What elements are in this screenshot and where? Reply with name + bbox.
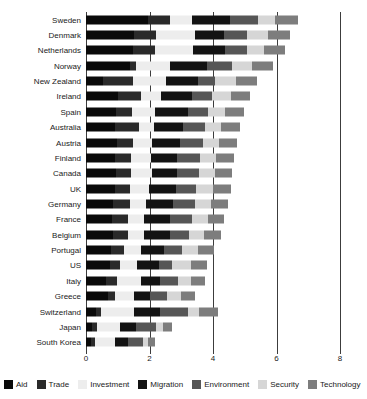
stacked-bar[interactable] xyxy=(86,215,224,224)
bar-segment-aid[interactable] xyxy=(86,200,113,209)
stacked-bar[interactable] xyxy=(86,61,273,70)
bar-segment-investment[interactable] xyxy=(130,184,149,193)
bar-segment-environment[interactable] xyxy=(160,307,188,316)
bar-segment-technology[interactable] xyxy=(213,184,231,193)
bar-segment-migration[interactable] xyxy=(193,46,225,55)
bar-segment-security[interactable] xyxy=(203,138,218,147)
bar-segment-investment[interactable] xyxy=(128,230,144,239)
bar-segment-aid[interactable] xyxy=(86,107,116,116)
bar-segment-technology[interactable] xyxy=(215,169,232,178)
stacked-bar[interactable] xyxy=(86,169,232,178)
bar-segment-security[interactable] xyxy=(156,322,163,331)
bar-segment-environment[interactable] xyxy=(183,123,205,132)
bar-segment-aid[interactable] xyxy=(86,123,115,132)
bar-segment-investment[interactable] xyxy=(156,31,195,40)
bar-segment-security[interactable] xyxy=(192,215,208,224)
stacked-bar[interactable] xyxy=(86,276,205,285)
bar-segment-security[interactable] xyxy=(247,31,267,40)
bar-segment-migration[interactable] xyxy=(120,322,136,331)
bar-segment-aid[interactable] xyxy=(86,153,115,162)
bar-segment-investment[interactable] xyxy=(117,276,141,285)
bar-segment-trade[interactable] xyxy=(117,138,133,147)
bar-segment-investment[interactable] xyxy=(131,153,151,162)
bar-segment-aid[interactable] xyxy=(86,246,111,255)
bar-segment-technology[interactable] xyxy=(216,153,234,162)
legend-item-technology[interactable]: Technology xyxy=(308,380,360,389)
bar-segment-environment[interactable] xyxy=(177,169,199,178)
bar-segment-technology[interactable] xyxy=(219,138,237,147)
bar-segment-investment[interactable] xyxy=(115,292,133,301)
stacked-bar[interactable] xyxy=(86,77,257,86)
bar-segment-environment[interactable] xyxy=(159,261,172,270)
bar-segment-trade[interactable] xyxy=(112,215,128,224)
bar-segment-trade[interactable] xyxy=(108,292,115,301)
bar-segment-aid[interactable] xyxy=(86,169,116,178)
bar-segment-aid[interactable] xyxy=(86,307,96,316)
bar-segment-investment[interactable] xyxy=(155,46,193,55)
bar-segment-migration[interactable] xyxy=(141,276,159,285)
bar-segment-technology[interactable] xyxy=(231,92,251,101)
bar-segment-security[interactable] xyxy=(196,184,213,193)
bar-segment-migration[interactable] xyxy=(195,31,224,40)
legend-item-security[interactable]: Security xyxy=(258,380,299,389)
stacked-bar[interactable] xyxy=(86,200,228,209)
bar-segment-technology[interactable] xyxy=(211,200,228,209)
bar-segment-trade[interactable] xyxy=(113,230,128,239)
stacked-bar[interactable] xyxy=(86,138,237,147)
bar-segment-investment[interactable] xyxy=(124,246,141,255)
bar-segment-aid[interactable] xyxy=(86,61,130,70)
bar-segment-aid[interactable] xyxy=(86,92,118,101)
bar-segment-investment[interactable] xyxy=(131,169,151,178)
stacked-bar[interactable] xyxy=(86,307,218,316)
bar-segment-technology[interactable] xyxy=(191,261,207,270)
legend-item-environment[interactable]: Environment xyxy=(192,380,249,389)
bar-segment-aid[interactable] xyxy=(86,31,134,40)
stacked-bar[interactable] xyxy=(86,92,250,101)
bar-segment-aid[interactable] xyxy=(86,261,110,270)
bar-segment-security[interactable] xyxy=(208,107,225,116)
bar-segment-security[interactable] xyxy=(172,261,190,270)
bar-segment-trade[interactable] xyxy=(118,92,141,101)
bar-segment-technology[interactable] xyxy=(236,77,258,86)
bar-segment-investment[interactable] xyxy=(97,322,120,331)
bar-segment-technology[interactable] xyxy=(264,46,286,55)
stacked-bar[interactable] xyxy=(86,292,195,301)
bar-segment-environment[interactable] xyxy=(230,15,258,24)
bar-segment-migration[interactable] xyxy=(166,77,198,86)
legend-item-aid[interactable]: Aid xyxy=(4,380,28,389)
bar-segment-technology[interactable] xyxy=(191,276,206,285)
bar-segment-migration[interactable] xyxy=(161,92,192,101)
bar-segment-aid[interactable] xyxy=(86,215,112,224)
bar-segment-technology[interactable] xyxy=(221,123,240,132)
legend-item-investment[interactable]: Investment xyxy=(78,380,129,389)
bar-segment-migration[interactable] xyxy=(152,169,177,178)
stacked-bar[interactable] xyxy=(86,15,298,24)
bar-segment-security[interactable] xyxy=(247,46,264,55)
bar-segment-migration[interactable] xyxy=(137,261,159,270)
bar-segment-investment[interactable] xyxy=(133,138,152,147)
bar-segment-migration[interactable] xyxy=(115,338,128,347)
bar-segment-investment[interactable] xyxy=(139,123,154,132)
bar-segment-migration[interactable] xyxy=(192,15,231,24)
bar-segment-trade[interactable] xyxy=(110,261,120,270)
bar-segment-trade[interactable] xyxy=(134,31,157,40)
bar-segment-trade[interactable] xyxy=(133,46,155,55)
legend-item-trade[interactable]: Trade xyxy=(37,380,70,389)
stacked-bar[interactable] xyxy=(86,261,207,270)
bar-segment-trade[interactable] xyxy=(111,246,124,255)
bar-segment-technology[interactable] xyxy=(268,31,290,40)
bar-segment-trade[interactable] xyxy=(116,169,131,178)
bar-segment-technology[interactable] xyxy=(199,307,218,316)
bar-segment-investment[interactable] xyxy=(95,338,115,347)
bar-segment-environment[interactable] xyxy=(128,338,143,347)
bar-segment-trade[interactable] xyxy=(148,15,170,24)
bar-segment-security[interactable] xyxy=(195,200,212,209)
stacked-bar[interactable] xyxy=(86,338,156,347)
bar-segment-technology[interactable] xyxy=(225,107,244,116)
bar-segment-environment[interactable] xyxy=(198,77,215,86)
stacked-bar[interactable] xyxy=(86,46,285,55)
bar-segment-investment[interactable] xyxy=(136,61,170,70)
bar-segment-security[interactable] xyxy=(200,153,216,162)
stacked-bar[interactable] xyxy=(86,322,172,331)
bar-segment-migration[interactable] xyxy=(151,153,178,162)
